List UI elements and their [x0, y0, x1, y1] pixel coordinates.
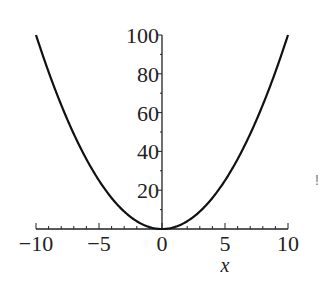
annotation-exclamation: !: [315, 172, 319, 188]
y-tick-label: 60: [137, 101, 159, 126]
parabola-chart: −10−50510 20406080100 x !: [0, 0, 334, 301]
y-tick-label: 20: [137, 178, 159, 203]
x-tick-label: −5: [87, 231, 110, 256]
x-tick-label: 0: [157, 231, 168, 256]
y-tick-label: 80: [137, 62, 159, 87]
x-tick-label: 5: [220, 231, 231, 256]
y-tick-label: 40: [137, 139, 159, 164]
x-tick-label: −10: [19, 231, 53, 256]
y-axis-ticks: 20406080100: [126, 23, 162, 210]
x-axis-label: x: [220, 254, 230, 276]
y-tick-label: 100: [126, 23, 159, 48]
x-tick-label: 10: [277, 231, 299, 256]
